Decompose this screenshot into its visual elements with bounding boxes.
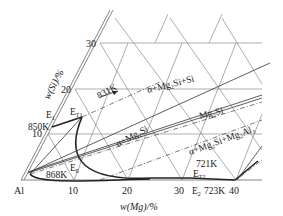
- region-a-mg2si: α+Mg₂Si: [114, 123, 150, 148]
- e1-label: E1: [46, 110, 55, 121]
- e0-label: E0: [70, 163, 79, 174]
- x-tick-10: 10: [68, 185, 78, 196]
- temp-723k: 723K: [204, 186, 225, 196]
- et2-label: ET2: [193, 169, 205, 180]
- x-tick-30: 30: [174, 185, 184, 196]
- y-tick-20: 20: [61, 84, 71, 95]
- et1-label: ET1: [70, 107, 82, 118]
- y-tick-30: 30: [86, 38, 96, 49]
- temp-831k: 831K: [95, 82, 118, 101]
- temp-868k: 868K: [46, 170, 67, 180]
- x-tick-20: 20: [122, 185, 132, 196]
- ternary-diagram: 10 20 30 40 10 20 30 Al w(Mg)/% w(Si)/% …: [0, 0, 283, 216]
- x-axis-label: w(Mg)/%: [120, 201, 158, 213]
- al-corner-label: Al: [14, 185, 24, 196]
- temp-721k: 721K: [196, 159, 217, 169]
- region-a-mg2si-si: α+Mg₂Si+Si: [146, 74, 195, 95]
- x-tick-40: 40: [229, 185, 239, 196]
- temp-850k: 850K: [28, 122, 49, 132]
- e2-label: E2: [192, 186, 201, 197]
- region-mg2si: Mg₂Si: [198, 105, 224, 121]
